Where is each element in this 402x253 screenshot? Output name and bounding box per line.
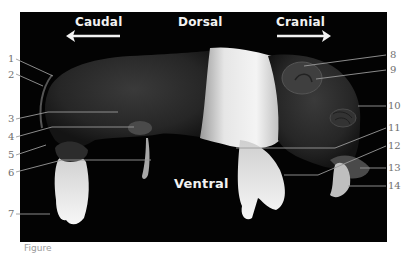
- callout-6: 6: [8, 168, 14, 178]
- leader-line-12: [318, 146, 386, 175]
- callout-8: 8: [390, 50, 396, 60]
- leader-line-9: [316, 70, 386, 79]
- leader-line-11: [335, 128, 386, 148]
- callout-4: 4: [8, 132, 14, 142]
- figure-caption: Figure: [24, 244, 51, 253]
- leader-line-5: [16, 145, 46, 155]
- callout-10: 10: [388, 101, 401, 111]
- leader-line-8: [304, 55, 386, 66]
- callout-14: 14: [388, 181, 401, 191]
- callout-12: 12: [388, 141, 401, 151]
- leader-line-2: [16, 74, 43, 86]
- callout-5: 5: [8, 150, 14, 160]
- callout-2: 2: [8, 70, 14, 80]
- callout-11: 11: [388, 123, 401, 133]
- leader-line-1: [16, 59, 53, 76]
- callout-13: 13: [388, 163, 401, 173]
- callout-7: 7: [8, 209, 14, 219]
- callout-3: 3: [8, 114, 14, 124]
- callout-9: 9: [390, 65, 396, 75]
- callout-1: 1: [8, 54, 14, 64]
